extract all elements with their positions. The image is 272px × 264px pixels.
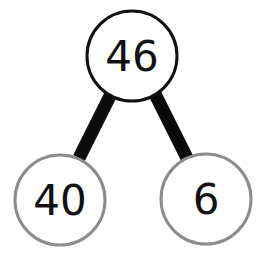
part-circle-right: 6 [161, 154, 251, 244]
part-value-right: 6 [193, 175, 220, 224]
whole-circle: 46 [87, 11, 177, 101]
connector-right [154, 92, 187, 158]
number-bond-diagram: 46 40 6 [0, 0, 272, 264]
connector-left [79, 92, 112, 158]
whole-value: 46 [105, 32, 158, 81]
part-circle-left: 40 [15, 155, 105, 245]
part-value-left: 40 [33, 176, 86, 225]
